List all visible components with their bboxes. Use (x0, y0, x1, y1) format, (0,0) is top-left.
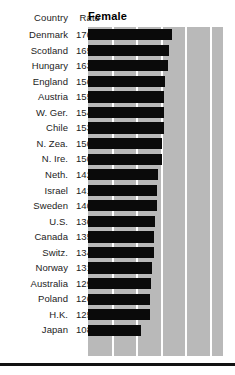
bar (88, 325, 141, 336)
chart-row: Japan108.7 (0, 322, 235, 338)
chart-row: Norway131.2 (0, 260, 235, 276)
row-country-label: Sweden (4, 200, 68, 211)
row-country-label: Hungary (4, 60, 68, 71)
chart-row: Chile153.8 (0, 120, 235, 136)
chart-row: Sweden140.9 (0, 198, 235, 214)
bar (88, 29, 172, 40)
chart-row: Scotland165.8 (0, 43, 235, 59)
chart-row: Poland126.4 (0, 291, 235, 307)
row-country-label: England (4, 76, 68, 87)
chart-row: N. Zea.150.7 (0, 136, 235, 152)
chart-row: U.S.136.3 (0, 214, 235, 230)
bar (88, 60, 168, 71)
bar (88, 122, 164, 133)
row-country-label: Scotland (4, 45, 68, 56)
row-country-label: Canada (4, 231, 68, 242)
column-header-country: Country (8, 12, 68, 23)
bar (88, 185, 157, 196)
table-header: Country Rate Female (0, 12, 235, 26)
chart-row: Hungary163.6 (0, 58, 235, 74)
row-country-label: W. Ger. (4, 107, 68, 118)
series-title: Female (88, 10, 127, 22)
chart-row: England156.0 (0, 74, 235, 90)
bottom-divider (0, 363, 235, 366)
chart-row: Australia129.2 (0, 276, 235, 292)
row-country-label: Denmark (4, 29, 68, 40)
row-country-label: Austria (4, 91, 68, 102)
row-country-label: Chile (4, 122, 68, 133)
bar (88, 76, 165, 87)
bar (88, 309, 150, 320)
chart-row: Israel141.3 (0, 183, 235, 199)
row-country-label: Neth. (4, 169, 68, 180)
row-country-label: Australia (4, 278, 68, 289)
bar (88, 262, 152, 273)
chart-row: H.K.125.3 (0, 307, 235, 323)
bar (88, 45, 169, 56)
bar (88, 154, 162, 165)
chart-row: Switz.134.2 (0, 245, 235, 261)
row-country-label: U.S. (4, 216, 68, 227)
chart-root: Country Rate Female Denmark170.9Scotland… (0, 0, 235, 375)
chart-row: W. Ger.154.8 (0, 105, 235, 121)
bar (88, 278, 151, 289)
row-country-label: Japan (4, 324, 68, 335)
row-country-label: H.K. (4, 309, 68, 320)
row-country-label: Israel (4, 185, 68, 196)
row-country-label: Norway (4, 262, 68, 273)
bar (88, 231, 154, 242)
chart-row: Denmark170.9 (0, 27, 235, 43)
bar (88, 216, 155, 227)
bar (88, 294, 150, 305)
bar (88, 91, 164, 102)
row-country-label: Switz. (4, 247, 68, 258)
bar (88, 247, 154, 258)
bar (88, 107, 164, 118)
bar (88, 200, 157, 211)
row-country-label: N. Ire. (4, 153, 68, 164)
chart-row: Neth.142.6 (0, 167, 235, 183)
chart-row: Austria155.3 (0, 89, 235, 105)
row-country-label: Poland (4, 293, 68, 304)
chart-row: Canada135.3 (0, 229, 235, 245)
row-country-label: N. Zea. (4, 138, 68, 149)
bar (88, 169, 158, 180)
chart-row: N. Ire.150.4 (0, 151, 235, 167)
bar (88, 138, 162, 149)
